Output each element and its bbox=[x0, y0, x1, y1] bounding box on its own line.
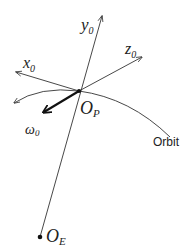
x-axis-label: x0 bbox=[22, 54, 35, 74]
oe-label: OE bbox=[46, 226, 66, 247]
y-axis-line bbox=[40, 16, 102, 237]
x-axis-line bbox=[16, 72, 79, 91]
angular-velocity-arrow bbox=[44, 91, 79, 112]
op-point bbox=[77, 89, 81, 93]
op-label: OP bbox=[80, 98, 100, 119]
omega-label: ω0 bbox=[25, 122, 40, 138]
orbit-label: Orbit bbox=[153, 135, 180, 149]
z-axis-line bbox=[79, 57, 142, 91]
oe-point bbox=[38, 235, 43, 240]
orbital-frame-diagram: y0 z0 x0 OP ω0 OE Orbit bbox=[0, 0, 196, 248]
y-axis-label: y0 bbox=[79, 15, 94, 36]
z-axis-label: z0 bbox=[124, 40, 136, 60]
